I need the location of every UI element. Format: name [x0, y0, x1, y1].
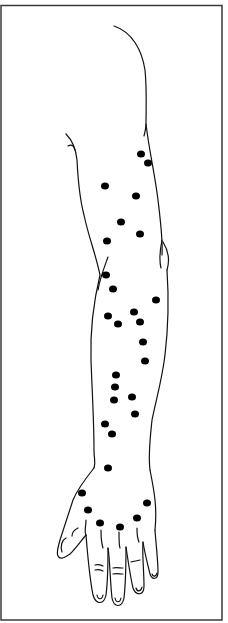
lesion-dot — [108, 430, 116, 437]
lesion-dot — [133, 514, 141, 521]
arm-outline — [57, 26, 168, 606]
lesion-dot — [137, 150, 145, 157]
lesion-dot — [117, 218, 125, 225]
lesion-dot — [144, 159, 152, 166]
lesion-dot — [141, 357, 149, 364]
lesion-dot — [152, 296, 160, 303]
lesion-dot — [143, 499, 151, 506]
lesion-dot — [104, 464, 112, 471]
lesion-dot — [114, 320, 122, 327]
lesion-dot — [84, 506, 92, 513]
lesion-dot — [116, 523, 124, 530]
lesion-dot — [130, 308, 138, 315]
lesion-dot — [111, 383, 119, 390]
lesion-dot — [128, 393, 136, 400]
lesion-dot — [101, 182, 109, 189]
lesion-dot — [112, 371, 120, 378]
lesion-dot — [110, 396, 118, 403]
lesion-dot — [131, 410, 139, 417]
lesion-dot — [132, 192, 140, 199]
lesion-dot — [102, 271, 110, 278]
lesion-dot — [96, 519, 104, 526]
lesion-dot — [78, 489, 86, 496]
lesion-dot — [136, 230, 144, 237]
lesion-dot — [103, 237, 111, 244]
lesion-dot — [109, 285, 117, 292]
arm-diagram — [0, 0, 228, 623]
figure-border — [1, 6, 222, 621]
lesion-dot — [139, 338, 147, 345]
lesion-dot — [101, 420, 109, 427]
lesion-dot — [136, 318, 144, 325]
lesion-dot — [104, 312, 112, 319]
